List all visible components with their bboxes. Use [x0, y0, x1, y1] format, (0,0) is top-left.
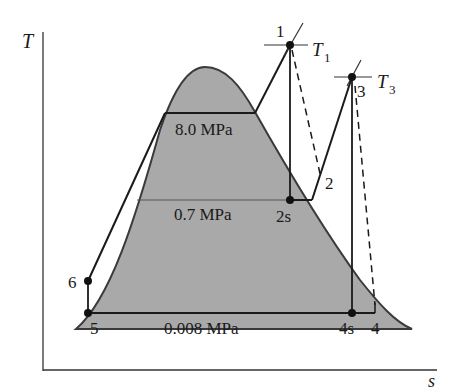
high-pressure-label: 8.0 MPa: [175, 120, 233, 139]
state-label-4s: 4s: [339, 319, 354, 338]
state-point-6: [84, 277, 92, 285]
t3-label: T: [377, 71, 389, 92]
actual-1-2: [292, 50, 321, 178]
state-point-4s: [348, 309, 356, 317]
state-label-2s: 2s: [276, 207, 291, 226]
actual-3-4: [355, 86, 375, 305]
state-label-1: 1: [276, 22, 285, 41]
low-pressure-label: 0.008 MPa: [164, 319, 239, 338]
state-label-3: 3: [357, 82, 366, 101]
state-point-2s: [286, 196, 294, 204]
state-point-1: [286, 41, 294, 49]
ts-diagram: T s 8.0 MPa 0.7 MPa 0.008 MPa 1 2 2s 3 4…: [0, 0, 450, 392]
state-point-5: [84, 309, 92, 317]
state-point-3: [348, 73, 356, 81]
t1-isotherm-slant: [284, 23, 303, 56]
state-label-4: 4: [371, 319, 380, 338]
t3-subscript: 3: [389, 82, 396, 97]
state-label-6: 6: [68, 273, 77, 292]
t-axis-label: T: [22, 30, 35, 52]
t1-label: T: [312, 39, 324, 60]
state-label-5: 5: [90, 319, 99, 338]
state-label-2: 2: [325, 174, 334, 193]
mid-pressure-label: 0.7 MPa: [174, 205, 232, 224]
t1-subscript: 1: [324, 50, 331, 65]
s-axis-label: s: [428, 371, 435, 391]
